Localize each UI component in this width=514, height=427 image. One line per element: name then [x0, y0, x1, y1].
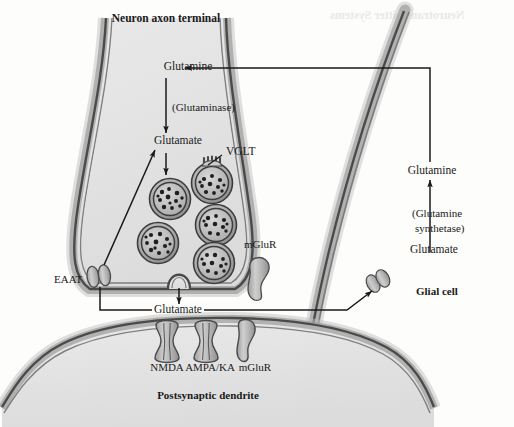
label-nmda: NMDA: [150, 361, 184, 373]
synaptic-vesicle: [194, 243, 235, 284]
label-glutamine-glia: Glutamine: [408, 164, 457, 177]
synaptic-vesicle: [150, 179, 191, 220]
glial-eaat-transporter[interactable]: [363, 267, 392, 294]
label-glutaminase: (Glutaminase): [172, 101, 235, 113]
label-glutamine-synthetase-line1: (Glutamine: [412, 207, 462, 219]
synaptic-vesicle: [196, 205, 237, 246]
label-vglt: VGLT: [226, 145, 256, 158]
label-glutamate-presynaptic: Glutamate: [154, 134, 202, 147]
label-glutamate-glia: Glutamate: [410, 243, 458, 256]
label-eaat: EAAT: [54, 273, 82, 285]
synaptic-vesicle: [138, 223, 179, 264]
vesicle-fusion-pore: [168, 275, 190, 289]
label-glutamine-synthetase-line2: synthetase): [415, 222, 464, 234]
label-glutamate-cleft: Glutamate: [154, 303, 202, 316]
label-mglur-postsynaptic: mGluR: [239, 361, 271, 373]
label-glial-cell: Glial cell: [416, 285, 458, 297]
label-postsynaptic-dendrite: Postsynaptic dendrite: [157, 389, 259, 401]
presynaptic-mglur-receptor[interactable]: [248, 258, 269, 301]
page-title-axon-terminal: Neuron axon terminal: [112, 12, 220, 25]
label-ampa-ka: AMPA/KA: [185, 361, 235, 373]
label-mglur-presynaptic: mGluR: [244, 238, 276, 250]
label-glutamine-presynaptic: Glutamine: [164, 60, 213, 73]
